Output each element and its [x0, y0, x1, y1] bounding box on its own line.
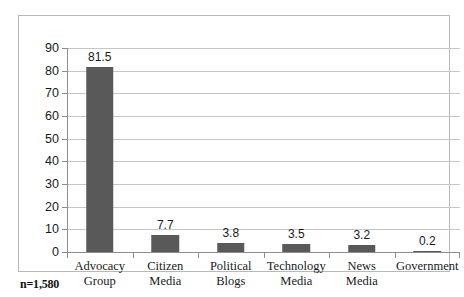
- x-tick-mark: [329, 252, 330, 258]
- y-tick-label-10: 10: [29, 223, 59, 236]
- x-category-label-line: Media: [133, 274, 199, 289]
- bar-slot: 3.8: [198, 48, 264, 252]
- x-category-label-line: Political: [198, 259, 264, 274]
- x-axis-category-labels: AdvocacyGroupCitizenMediaPoliticalBlogsT…: [67, 259, 460, 289]
- x-category-label: PoliticalBlogs: [198, 259, 264, 289]
- y-tick-mark-60: [62, 116, 68, 117]
- y-tick-label-20: 20: [29, 201, 59, 214]
- bar-slot: 81.5: [67, 48, 133, 252]
- bar-slot: 3.5: [264, 48, 330, 252]
- x-tick-mark: [459, 252, 460, 258]
- y-tick-mark-20: [62, 207, 68, 208]
- x-tick-mark: [395, 252, 396, 258]
- bar-slot: 7.7: [133, 48, 199, 252]
- y-tick-mark-80: [62, 71, 68, 72]
- bar-value-label: 81.5: [67, 51, 133, 63]
- bar[interactable]: [283, 244, 311, 252]
- bar-slot: 3.2: [329, 48, 395, 252]
- y-tick-label-30: 30: [29, 178, 59, 191]
- y-tick-label-0: 0: [29, 246, 59, 259]
- bar-value-label: 0.2: [395, 235, 461, 247]
- chart-frame: 0102030405060708090 81.57.73.83.53.20.2 …: [18, 15, 450, 272]
- bar[interactable]: [86, 67, 114, 252]
- bar[interactable]: [348, 245, 376, 252]
- x-category-label-line: Government: [395, 259, 461, 274]
- bar[interactable]: [152, 235, 180, 252]
- y-tick-mark-70: [62, 93, 68, 94]
- x-category-label-line: Citizen: [133, 259, 199, 274]
- y-tick-mark-50: [62, 139, 68, 140]
- sample-size-footnote: n=1,580: [20, 277, 59, 292]
- x-category-label-line: Group: [67, 274, 133, 289]
- x-category-label-line: Technology: [264, 259, 330, 274]
- x-tick-mark: [198, 252, 199, 258]
- y-tick-mark-0: [62, 252, 68, 253]
- x-category-label-line: Media: [264, 274, 330, 289]
- y-tick-mark-90: [62, 48, 68, 49]
- y-tick-mark-30: [62, 184, 68, 185]
- x-tick-mark: [264, 252, 265, 258]
- bars-layer: 81.57.73.83.53.20.2: [67, 48, 460, 252]
- bar[interactable]: [217, 243, 245, 252]
- bar-value-label: 3.2: [329, 229, 395, 241]
- x-tick-mark: [133, 252, 134, 258]
- x-category-label: NewsMedia: [329, 259, 395, 289]
- bar-value-label: 3.8: [198, 227, 264, 239]
- x-category-label-line: Media: [329, 274, 395, 289]
- y-tick-label-40: 40: [29, 155, 59, 168]
- bar-value-label: 7.7: [133, 219, 199, 231]
- y-axis-tick-labels: 0102030405060708090: [27, 16, 59, 271]
- y-tick-mark-40: [62, 161, 68, 162]
- x-category-label-line: News: [329, 259, 395, 274]
- x-category-label: AdvocacyGroup: [67, 259, 133, 289]
- y-tick-label-70: 70: [29, 87, 59, 100]
- y-tick-label-50: 50: [29, 133, 59, 146]
- x-category-label: CitizenMedia: [133, 259, 199, 289]
- y-tick-label-80: 80: [29, 65, 59, 78]
- y-tick-label-60: 60: [29, 110, 59, 123]
- x-category-label-line: Blogs: [198, 274, 264, 289]
- y-tick-mark-10: [62, 229, 68, 230]
- y-tick-label-90: 90: [29, 42, 59, 55]
- x-category-label: Government: [395, 259, 461, 274]
- bar-value-label: 3.5: [264, 228, 330, 240]
- x-category-label-line: Advocacy: [67, 259, 133, 274]
- x-category-label: TechnologyMedia: [264, 259, 330, 289]
- x-axis-ticks: [67, 252, 460, 258]
- bar-slot: 0.2: [395, 48, 461, 252]
